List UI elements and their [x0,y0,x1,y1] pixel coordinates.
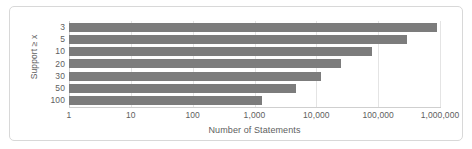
x-axis-tick-label: 10 [126,110,136,120]
x-axis-tick-label: 1,000 [244,110,266,120]
bar-row [69,21,440,33]
y-axis-tick-label: 30 [25,72,65,81]
bar-row [69,95,440,107]
x-axis-line [69,107,441,108]
x-axis-title: Number of Statements [69,125,440,135]
y-axis-tick-label: 5 [25,35,65,44]
bar-row [69,58,440,70]
y-axis-tick-label: 100 [25,96,65,105]
gridline [440,21,441,107]
bar [69,47,372,56]
chart-figure: Support ≥ x 3510203050100 1101001,00010,… [0,0,472,149]
y-axis-tick-label: 3 [25,23,65,32]
bar [69,96,262,105]
plot-area [69,21,440,107]
y-axis-tick-label: 10 [25,47,65,56]
chart-frame: Support ≥ x 3510203050100 1101001,00010,… [9,6,463,141]
y-axis-tick-labels: 3510203050100 [20,21,65,107]
bar-row [69,70,440,82]
y-axis-tick-label: 20 [25,60,65,69]
bar-row [69,46,440,58]
x-axis-tick-label: 100 [185,110,199,120]
bar-row [69,33,440,45]
x-axis-tick-label: 1,000,000 [421,110,460,120]
bar [69,72,321,81]
x-axis-tick-label: 10,000 [303,110,330,120]
bar [69,23,437,32]
bar [69,59,341,68]
x-axis-tick-label: 1 [67,110,72,120]
y-axis-tick-label: 50 [25,84,65,93]
bar [69,35,407,44]
bar-row [69,82,440,94]
x-axis-tick-labels: 1101001,00010,000100,0001,000,000 [69,110,440,124]
bar [69,84,296,93]
x-axis-tick-label: 100,000 [362,110,393,120]
